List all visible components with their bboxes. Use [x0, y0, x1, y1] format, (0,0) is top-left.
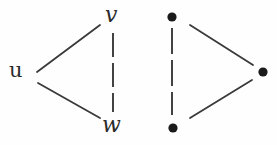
edge-u-w	[38, 83, 100, 118]
dot-graph	[167, 12, 267, 132]
graph-drawing	[0, 0, 277, 145]
edge-a-c	[190, 25, 253, 65]
edge-u-v	[37, 25, 100, 72]
labeled-graph	[37, 25, 113, 118]
vertex-label-w: w	[102, 114, 121, 136]
figure-canvas: u v w	[0, 0, 277, 145]
vertex-dot-right	[258, 67, 267, 76]
vertex-label-v: v	[105, 4, 117, 26]
vertex-dot-bottom	[168, 123, 177, 132]
vertex-dot-top	[167, 12, 176, 21]
vertex-label-u: u	[9, 60, 23, 81]
edge-b-c	[190, 80, 252, 118]
